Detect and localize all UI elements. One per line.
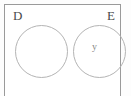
set-label-e: E	[107, 9, 115, 22]
set-label-d: D	[13, 9, 22, 22]
set-circle-d	[15, 25, 68, 78]
element-label-y: y	[92, 42, 97, 52]
set-diagram-canvas: D E y	[0, 0, 131, 96]
set-circle-e	[73, 25, 126, 78]
